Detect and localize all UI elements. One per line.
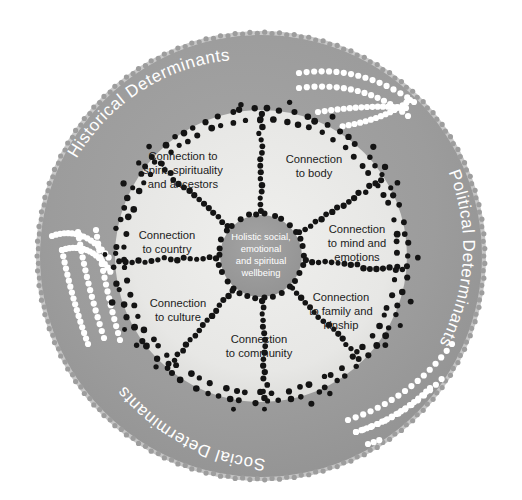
- decor-dot: [405, 113, 411, 119]
- decor-dot: [298, 295, 304, 301]
- decor-dot: [394, 250, 400, 256]
- decor-dot: [139, 338, 145, 344]
- decor-dot: [218, 474, 223, 479]
- decor-dot: [361, 90, 367, 96]
- decor-dot: [286, 388, 292, 394]
- decor-dot: [259, 182, 265, 188]
- decor-dot: [238, 102, 243, 107]
- decor-dot: [284, 475, 289, 480]
- decor-dot: [116, 258, 122, 264]
- decor-dot: [391, 217, 396, 222]
- decor-dot: [368, 447, 373, 452]
- decor-dot: [172, 358, 177, 363]
- decor-dot: [123, 231, 129, 237]
- decor-dot: [335, 43, 340, 48]
- decor-dot: [462, 160, 467, 165]
- decor-dot: [395, 180, 401, 186]
- decor-dot: [39, 217, 44, 222]
- decor-dot: [65, 366, 70, 371]
- segment-family-line-2: to family and: [309, 305, 372, 317]
- decor-dot: [315, 109, 321, 115]
- decor-dot: [365, 352, 371, 358]
- decor-dot: [175, 461, 180, 466]
- decor-dot: [327, 391, 332, 396]
- decor-dot: [258, 202, 264, 208]
- segment-label-mind[interactable]: Connection to mind and emotions: [328, 223, 386, 263]
- decor-dot: [211, 471, 216, 476]
- decor-dot: [82, 267, 88, 273]
- decor-dot: [279, 290, 285, 296]
- decor-dot: [63, 265, 69, 271]
- decor-dot: [207, 380, 213, 386]
- decor-dot: [346, 122, 352, 128]
- decor-dot: [389, 292, 395, 298]
- decor-dot: [83, 335, 89, 341]
- decor-dot: [334, 106, 340, 112]
- decor-dot: [113, 244, 119, 250]
- decor-dot: [334, 84, 340, 90]
- decor-dot: [109, 299, 116, 306]
- decor-dot: [393, 312, 398, 317]
- decor-dot: [353, 105, 359, 111]
- decor-dot: [359, 344, 365, 350]
- decor-dot: [207, 254, 213, 260]
- decor-dot: [111, 316, 117, 322]
- decor-dot: [469, 181, 474, 186]
- decor-dot: [439, 376, 445, 382]
- decor-dot: [169, 370, 175, 376]
- segment-culture-line-1: Connection: [150, 297, 207, 309]
- decor-dot: [200, 256, 205, 261]
- decor-dot: [374, 95, 380, 101]
- decor-dot: [240, 31, 245, 36]
- decor-dot: [162, 455, 167, 460]
- decor-dot: [388, 185, 393, 190]
- decor-dot: [370, 333, 376, 339]
- decor-dot: [264, 105, 271, 112]
- decor-dot: [458, 154, 463, 159]
- decor-dot: [231, 407, 236, 412]
- decor-dot: [408, 383, 414, 389]
- decor-dot: [121, 244, 126, 249]
- decor-dot: [272, 213, 278, 219]
- decor-dot: [348, 48, 353, 53]
- decor-dot: [479, 224, 484, 229]
- decor-dot: [70, 372, 75, 377]
- decor-dot: [479, 217, 484, 222]
- decor-dot: [93, 307, 99, 313]
- decor-dot: [335, 464, 340, 469]
- decor-dot: [481, 239, 486, 244]
- decor-dot: [240, 475, 245, 480]
- decor-dot: [84, 274, 90, 280]
- decor-dot: [464, 167, 469, 172]
- decor-dot: [197, 328, 203, 334]
- decor-dot: [477, 210, 482, 215]
- decor-dot: [296, 85, 302, 91]
- decor-dot: [216, 262, 222, 268]
- decor-dot: [113, 226, 118, 231]
- decor-dot: [277, 30, 282, 35]
- decor-dot: [37, 231, 42, 236]
- decor-dot: [355, 53, 360, 58]
- decor-dot: [343, 342, 348, 347]
- decor-dot: [455, 360, 460, 365]
- decor-dot: [261, 210, 267, 216]
- decor-dot: [35, 268, 40, 273]
- decor-dot: [82, 391, 87, 396]
- decor-dot: [79, 324, 85, 330]
- decor-dot: [373, 342, 380, 349]
- decor-dot: [379, 172, 384, 177]
- decor-dot: [269, 31, 274, 36]
- segment-label-spirit[interactable]: Connection to spirit, spirituality and a…: [143, 150, 223, 190]
- decor-dot: [194, 257, 199, 262]
- decor-dot: [168, 257, 174, 263]
- decor-dot: [203, 470, 208, 475]
- decor-dot: [399, 289, 406, 296]
- decor-dot: [375, 405, 381, 411]
- decor-dot: [123, 259, 129, 265]
- decor-dot: [257, 163, 263, 169]
- decor-dot: [197, 375, 202, 380]
- decor-dot: [322, 374, 327, 379]
- decor-dot: [363, 190, 368, 195]
- decor-dot: [355, 190, 361, 196]
- decor-dot: [225, 33, 230, 38]
